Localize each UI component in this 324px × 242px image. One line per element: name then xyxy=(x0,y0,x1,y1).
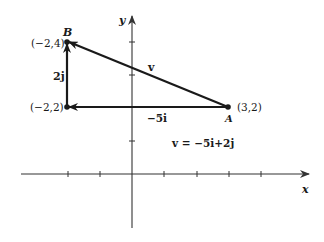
label-neg5i: −5i xyxy=(147,112,167,124)
point-B xyxy=(64,39,70,45)
vector-diagram: x y B (−2,4) (−2,2) (3,2) A v −5i 2j v =… xyxy=(0,0,324,242)
point-A xyxy=(225,104,231,110)
vector-v xyxy=(69,42,228,107)
label-2j: 2j xyxy=(53,70,65,83)
x-axis: x xyxy=(21,171,309,196)
label-A-coord: (3,2) xyxy=(237,101,262,113)
label-B-coord: (−2,4) xyxy=(31,37,65,49)
y-axis: y xyxy=(118,14,135,228)
point-mid xyxy=(64,104,70,110)
x-axis-label: x xyxy=(301,183,309,196)
equation-label: v = −5i+2j xyxy=(171,137,234,149)
label-v: v xyxy=(147,61,155,74)
label-mid-coord: (−2,2) xyxy=(30,101,64,113)
y-axis-label: y xyxy=(118,14,127,27)
label-A: A xyxy=(224,113,233,124)
